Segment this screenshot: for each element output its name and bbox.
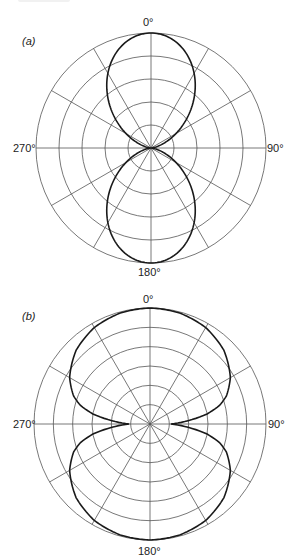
angle-label-0-a: 0° bbox=[143, 16, 154, 28]
angle-label-180-a: 180° bbox=[138, 266, 161, 278]
angle-label-270-b: 270° bbox=[13, 418, 36, 430]
polar-figure: (a) 0° 90° 180° 270° (b) 0° 90° 180° 270… bbox=[0, 0, 298, 559]
angle-label-180-b: 180° bbox=[138, 545, 161, 557]
angle-label-270-a: 270° bbox=[13, 142, 36, 154]
angle-label-0-b: 0° bbox=[143, 293, 154, 305]
angle-label-90-b: 90° bbox=[268, 418, 285, 430]
panel-label-b: (b) bbox=[22, 310, 36, 322]
angle-label-90-a: 90° bbox=[267, 142, 284, 154]
polar-plot-b: (b) 0° 90° 180° 270° bbox=[13, 293, 285, 557]
polar-grid-b bbox=[34, 308, 266, 540]
panel-label-a: (a) bbox=[22, 35, 36, 47]
polar-plot-a: (a) 0° 90° 180° 270° bbox=[13, 16, 284, 278]
